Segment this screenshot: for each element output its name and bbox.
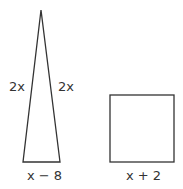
triangle-right-side-label: 2x bbox=[58, 80, 74, 93]
square-side-label: x + 2 bbox=[126, 169, 161, 182]
geometry-figure bbox=[0, 0, 183, 189]
triangle-base-label: x − 8 bbox=[27, 169, 62, 182]
square bbox=[110, 95, 174, 162]
triangle-left-side-label: 2x bbox=[9, 80, 25, 93]
isosceles-triangle bbox=[23, 10, 60, 162]
